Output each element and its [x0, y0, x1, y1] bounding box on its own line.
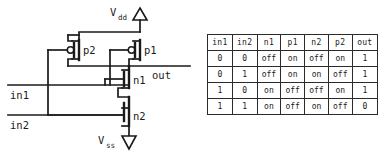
cell-in2: 1	[232, 99, 257, 115]
figure-root: V dd p2	[0, 0, 378, 165]
truth-table: in1 in2 n1 p1 n2 p2 out 0 0 off on off o…	[207, 34, 378, 115]
cell-n2: on	[305, 67, 329, 83]
circuit-svg: V dd p2	[0, 0, 200, 165]
header-p1: p1	[281, 35, 305, 51]
in1-label: in1	[10, 89, 29, 101]
vss-ground-icon	[122, 126, 136, 149]
cell-n2: off	[305, 51, 329, 67]
input-in2: in2	[8, 115, 124, 131]
table-row: 0 1 off on on off 1	[208, 67, 378, 83]
p2-source-corner	[68, 35, 72, 41]
vdd-label-main: V	[110, 6, 117, 18]
vdd-label-sub: dd	[118, 13, 127, 22]
cell-in2: 1	[232, 67, 257, 83]
p1-label: p1	[144, 44, 157, 56]
vss-label-sub: ss	[106, 141, 115, 150]
cell-p1: off	[281, 83, 305, 99]
p1-inversion-bubble-icon	[128, 47, 134, 53]
cell-in1: 1	[208, 83, 233, 99]
cell-out: 1	[352, 51, 377, 67]
cell-n2: on	[305, 99, 329, 115]
cell-in1: 1	[208, 99, 233, 115]
table-header-row: in1 in2 n1 p1 n2 p2 out	[208, 35, 378, 51]
cell-n2: off	[305, 83, 329, 99]
header-n2: n2	[305, 35, 329, 51]
p2-drain-corner	[68, 59, 72, 66]
cell-in1: 0	[208, 67, 233, 83]
cell-out: 0	[352, 99, 377, 115]
transistor-p1: p1	[110, 40, 157, 60]
cell-p1: on	[281, 51, 305, 67]
cell-out: 1	[352, 83, 377, 99]
cell-p1: off	[281, 99, 305, 115]
cell-p2: off	[328, 67, 352, 83]
table-row: 1 0 on off off on 1	[208, 83, 378, 99]
out-label: out	[152, 69, 171, 81]
vdd-rail-wire	[79, 32, 140, 40]
cell-in2: 0	[232, 51, 257, 67]
header-in1: in1	[208, 35, 233, 51]
header-p2: p2	[328, 35, 352, 51]
n1-n2-link-wire	[118, 88, 129, 97]
cell-n1: off	[257, 51, 281, 67]
cell-n1: on	[257, 99, 281, 115]
circuit-schematic: V dd p2	[0, 0, 200, 165]
table-row: 0 0 off on off on 1	[208, 51, 378, 67]
vss-label-main: V	[98, 134, 105, 146]
table-row: 1 1 on off on off 0	[208, 99, 378, 115]
cell-p2: on	[328, 83, 352, 99]
cell-out: 1	[352, 67, 377, 83]
p2-label: p2	[83, 44, 96, 56]
n2-label: n2	[133, 110, 146, 122]
p2-inversion-bubble-icon	[67, 47, 73, 53]
cell-n1: on	[257, 83, 281, 99]
cell-in1: 0	[208, 51, 233, 67]
n1-label: n1	[133, 74, 146, 86]
transistor-n2: n2	[48, 97, 146, 126]
cell-in2: 0	[232, 83, 257, 99]
header-n1: n1	[257, 35, 281, 51]
cell-p1: on	[281, 67, 305, 83]
in2-label: in2	[10, 119, 29, 131]
truth-table-container: in1 in2 n1 p1 n2 p2 out 0 0 off on off o…	[207, 34, 378, 115]
header-in2: in2	[232, 35, 257, 51]
vdd-supply-icon	[133, 8, 147, 32]
transistor-p2: p2	[48, 40, 96, 60]
cell-p2: off	[328, 99, 352, 115]
cell-n1: off	[257, 67, 281, 83]
cell-p2: on	[328, 51, 352, 67]
header-out: out	[352, 35, 377, 51]
